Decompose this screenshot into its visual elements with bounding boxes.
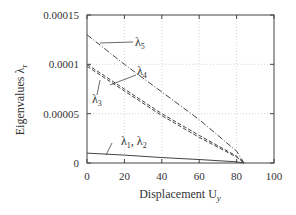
ticks: 02040608010000.000050.00010.00015 bbox=[43, 9, 283, 182]
svg-text:100: 100 bbox=[266, 170, 283, 182]
annotation-l4: λ4 bbox=[137, 64, 147, 80]
svg-text:0: 0 bbox=[74, 157, 80, 169]
chart: 02040608010000.000050.00010.00015 λ5 λ4 … bbox=[0, 0, 296, 215]
series-λ1, λ2 bbox=[87, 153, 244, 163]
svg-text:0.00005: 0.00005 bbox=[43, 108, 79, 120]
svg-text:0.0001: 0.0001 bbox=[49, 58, 79, 70]
annotation-l5: λ5 bbox=[135, 35, 145, 51]
x-axis-label: Displacement Uy bbox=[139, 187, 221, 203]
svg-text:80: 80 bbox=[231, 170, 243, 182]
svg-text:0.00015: 0.00015 bbox=[43, 9, 79, 21]
series-λ5 bbox=[87, 35, 244, 163]
svg-text:40: 40 bbox=[156, 170, 168, 182]
svg-text:20: 20 bbox=[119, 170, 131, 182]
series bbox=[87, 35, 244, 163]
y-axis-label: Eigenvalues λr bbox=[13, 65, 29, 135]
series-λ3 bbox=[87, 66, 244, 163]
svg-text:0: 0 bbox=[84, 170, 90, 182]
annotation-l3: λ3 bbox=[92, 92, 102, 108]
svg-text:60: 60 bbox=[194, 170, 206, 182]
grid bbox=[87, 15, 274, 163]
plot-frame bbox=[87, 15, 274, 163]
annotation-l1-l2: λ1, λ2 bbox=[121, 134, 147, 150]
